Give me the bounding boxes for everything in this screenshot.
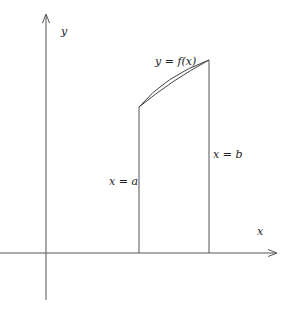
y-axis-label: y (61, 26, 67, 37)
function-label: y = f(x) (155, 56, 196, 67)
integral-region-diagram: y y = f(x) x = a x = b x (0, 0, 290, 313)
left-bound-label: x = a (109, 176, 138, 187)
right-bound-label: x = b (213, 149, 242, 160)
x-axis-label: x (257, 226, 263, 237)
diagram-drawing (0, 0, 290, 313)
